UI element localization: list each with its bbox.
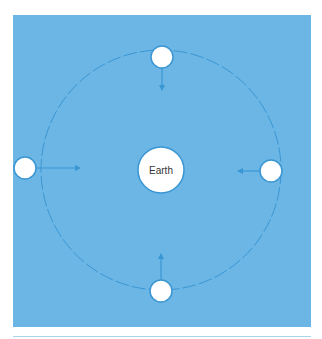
satellite-right (260, 160, 282, 182)
orbit-diagram: Earth (0, 0, 322, 339)
satellite-top (151, 46, 173, 68)
earth-label: Earth (149, 165, 173, 176)
satellite-left (14, 157, 36, 179)
satellite-bottom (150, 280, 172, 302)
